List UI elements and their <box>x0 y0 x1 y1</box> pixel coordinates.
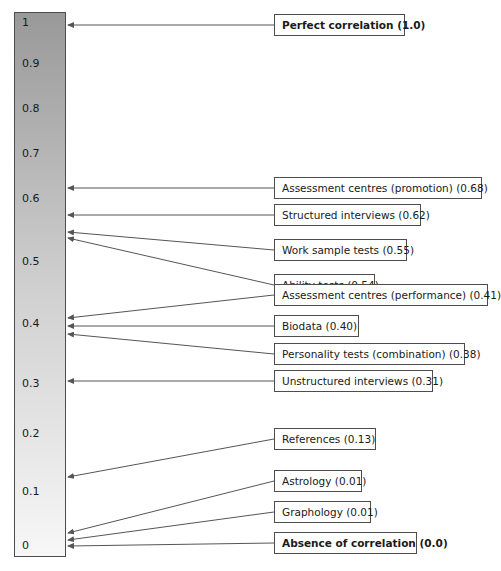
scale-tick-0-3: 0.3 <box>22 378 40 389</box>
label-box: Biodata (0.40) <box>274 315 359 337</box>
scale-tick-0-2: 0.2 <box>22 428 40 439</box>
scale-tick-0-7: 0.7 <box>22 148 40 159</box>
connector-line <box>68 334 274 354</box>
label-box-text: Graphology (0.01) <box>282 506 378 518</box>
label-box-text: Astrology (0.01) <box>282 475 366 487</box>
connector-line <box>68 481 274 533</box>
label-box: Structured interviews (0.62) <box>274 204 421 226</box>
scale-tick-1: 1 <box>22 17 29 28</box>
label-box: Assessment centres (performance) (0.41) <box>274 284 488 306</box>
label-box-text: Biodata (0.40) <box>282 320 357 332</box>
scale-tick-0-6: 0.6 <box>22 193 40 204</box>
label-box: Assessment centres (promotion) (0.68) <box>274 177 482 199</box>
connector-line <box>68 238 274 285</box>
label-box: Graphology (0.01) <box>274 501 371 523</box>
connector-line <box>68 543 274 546</box>
label-box: Astrology (0.01) <box>274 470 362 492</box>
label-box: References (0.13) <box>274 428 376 450</box>
scale-tick-0: 0 <box>22 540 29 551</box>
label-box: Personality tests (combination) (0.38) <box>274 343 465 365</box>
label-box-text: Structured interviews (0.62) <box>282 209 430 221</box>
connector-line <box>68 232 274 250</box>
label-box: Absence of correlation (0.0) <box>274 532 417 554</box>
label-box-text: Assessment centres (performance) (0.41) <box>282 289 501 301</box>
label-box-text: References (0.13) <box>282 433 375 445</box>
scale-tick-0-1: 0.1 <box>22 486 40 497</box>
label-box-text: Personality tests (combination) (0.38) <box>282 348 481 360</box>
label-box-text: Absence of correlation (0.0) <box>282 537 448 549</box>
scale-tick-0-8: 0.8 <box>22 103 40 114</box>
label-box-text: Perfect correlation (1.0) <box>282 19 425 31</box>
scale-tick-0-9: 0.9 <box>22 58 40 69</box>
connector-line <box>68 295 274 318</box>
connector-line <box>68 439 274 477</box>
label-box: Work sample tests (0.55) <box>274 239 407 261</box>
label-box-text: Work sample tests (0.55) <box>282 244 414 256</box>
label-box-text: Assessment centres (promotion) (0.68) <box>282 182 488 194</box>
scale-tick-0-4: 0.4 <box>22 318 40 329</box>
connector-line <box>68 512 274 540</box>
scale-tick-0-5: 0.5 <box>22 256 40 267</box>
gradient-scale-bar <box>14 12 66 557</box>
label-box-text: Unstructured interviews (0.31) <box>282 375 443 387</box>
label-box: Unstructured interviews (0.31) <box>274 370 433 392</box>
label-box: Perfect correlation (1.0) <box>274 14 405 36</box>
